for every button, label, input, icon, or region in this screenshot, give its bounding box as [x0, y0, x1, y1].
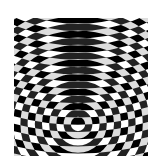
moire-pattern	[0, 0, 162, 167]
moire-svg	[0, 0, 162, 167]
